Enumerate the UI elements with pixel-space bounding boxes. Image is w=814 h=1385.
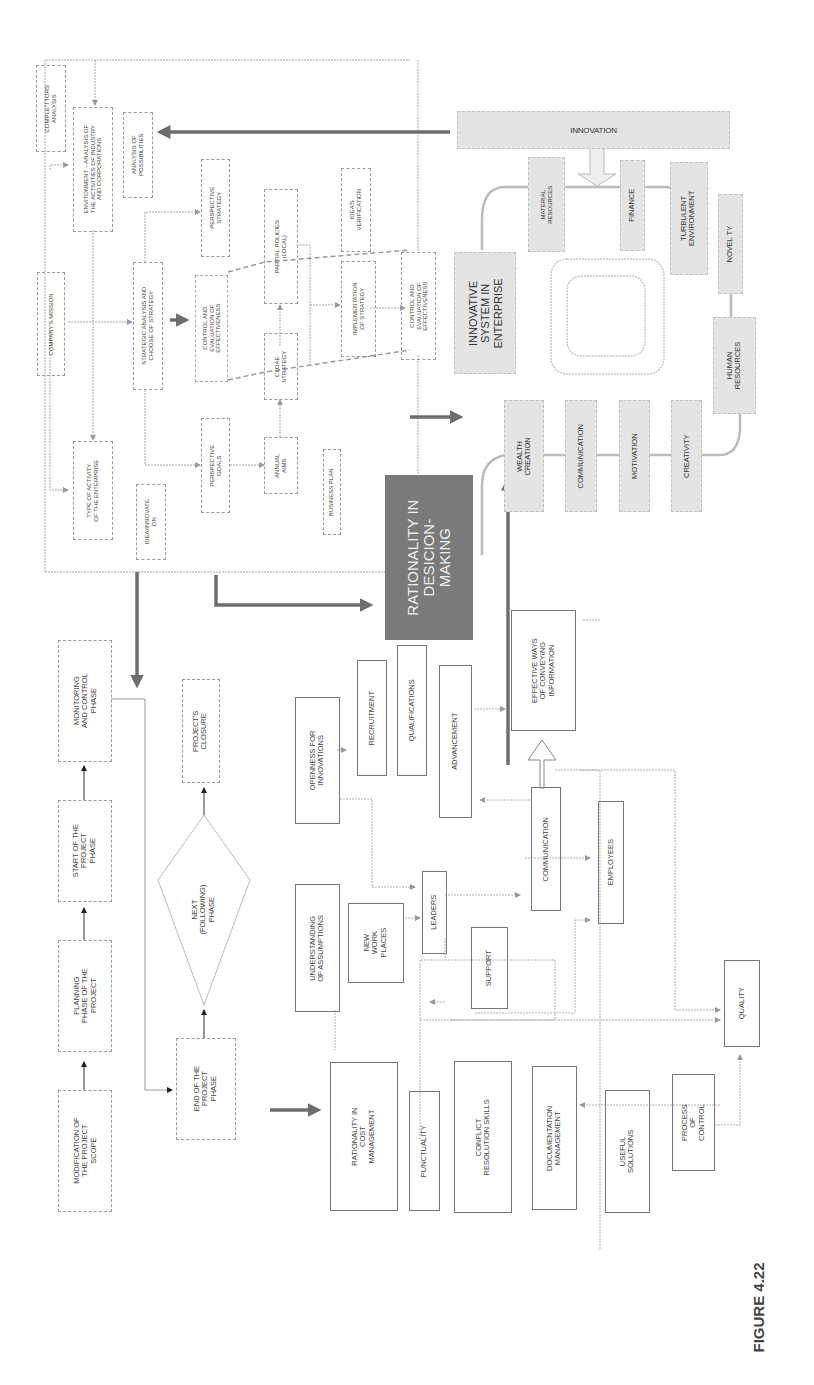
competitors-analysis-box: COMPLE"TTORS ANALYSIS — [36, 65, 66, 152]
advancement-box: ADVANCEMENT — [439, 665, 472, 818]
strategic-analysis-box: STRATEGIC ANALYSIS AND CHOOSE OF STRATEG… — [133, 262, 163, 390]
qualifications-label: QUALIFICATIONS — [408, 680, 416, 742]
new-work-places-box: NEW WORK PLACES — [348, 903, 404, 983]
company-mission-box: COMPANY'S MISSION — [37, 272, 65, 376]
effective-ways-label: EFFECTIVE WAYS OF CONVEYING INFORMATION — [531, 638, 556, 703]
partial-policies-box: PARTIAL POLICIES (LOCAL) — [264, 189, 298, 304]
business-plan-box: BUSINESS PLAN — [323, 449, 341, 535]
openness-innovations-label: OPENNESS FOR INNOVATIONS — [309, 731, 326, 791]
human-resources-box: HUMAN RESOURCES — [713, 317, 756, 414]
project-closure-box: PROJECT'S CLOSURE — [182, 679, 220, 783]
type-of-activity-box: TYPE OF ACTIVITY OF THE ENTERPRISE — [73, 441, 113, 540]
environment-label: ENVITONMENT – ANALYSIS OF THE ACTIVITIES… — [83, 125, 103, 214]
effective-ways-box: EFFECTIVE WAYS OF CONVEYING INFORMATION — [511, 610, 576, 731]
start-phase-label: START OF THE PROJECT PHASE — [72, 824, 97, 877]
analysis-of-possibilities-label: ANALYSIS OF POSSIBILITIES — [131, 134, 144, 176]
figure-caption-text: FIGURE 4.22 — [750, 1262, 767, 1352]
partial-policies-label: PARTIAL POLICIES (LOCAL) — [274, 220, 287, 274]
company-mission-label: COMPANY'S MISSION — [48, 293, 55, 355]
perspective-goals-label: PERSPECTIVE GOALS — [209, 444, 222, 486]
ideas-verification-label: IDEA'S VERIFICATION — [349, 189, 362, 231]
motivation-label: MOTIVATION — [630, 433, 638, 479]
creativity-label: CREATIVITY — [682, 434, 690, 478]
innovative-system-box: INNOVATIVE SYSTEM IN ENTERPRISE — [454, 252, 516, 374]
monitoring-phase-label: MONITORING AND CONTROL PHASE — [72, 674, 97, 729]
finance-box: FINANCE — [620, 160, 645, 251]
employees-box: EMPLOYEES — [598, 801, 624, 924]
communication-management-box: COMMUNICATION — [531, 787, 561, 911]
control-evaluation-dashed-box: CONTROL AND EVALUATION OF EFFECTIVENESS — [195, 275, 228, 382]
idea-innovation-label: IDEA/INNOVATE ON — [144, 499, 157, 544]
understanding-assumptions-box: UNDERSTANDING OF ASSUMPTIONS — [295, 884, 340, 1012]
perspective-goals-box: PERSPECTIVE GOALS — [201, 418, 230, 513]
annual-aims-label: ANNUAL AIMS — [274, 453, 287, 477]
cloae-strategy-label: CLOAE STRATEGY — [274, 351, 287, 383]
leaders-box: LEADERS — [422, 871, 447, 954]
strategic-analysis-label: STRATEGIC ANALYSIS AND CHOOSE OF STRATEG… — [141, 287, 154, 365]
rationality-cost-label: RATIONALITY IN COST MANAGEMENT — [351, 1107, 376, 1165]
competitors-analysis-label: COMPLE"TTORS ANALYSIS — [44, 85, 57, 133]
process-of-control-label: PROCESS OF CONTROL — [681, 1104, 706, 1141]
business-plan-label: BUSINESS PLAN — [329, 468, 336, 516]
control-evaluation-dashed-label: CONTROL AND EVALUATION OF EFFECTIVENESS — [201, 304, 221, 353]
modification-scope-label: MODIFICATION OF THE PROJECT SCOPE — [72, 1118, 97, 1185]
quality-box: QUALITY — [724, 960, 760, 1047]
environment-box: ENVITONMENT – ANALYSIS OF THE ACTIVITIES… — [73, 107, 113, 232]
material-resources-box: MATERIAL RESOURCES — [528, 157, 565, 252]
finance-label: FINANCE — [628, 189, 636, 222]
material-resources-label: MATERIAL RESOURCES — [540, 185, 553, 223]
perspective-strategy-box: PERSPECTIVE STRATEGY — [201, 159, 230, 257]
documentation-box: DOCUMENTATION MANAGEMENT — [532, 1066, 577, 1210]
modification-scope-box: MODIFICATION OF THE PROJECT SCOPE — [58, 1090, 112, 1212]
rationality-decision-making-box: RATIONALITY IN DESICION- MAKING — [385, 475, 473, 640]
analysis-of-possibilities-box: ANALYSIS OF POSSIBILITIES — [123, 112, 153, 198]
next-phase-diamond: NEXT (FOLLOWING) PHASE — [164, 830, 244, 990]
novelty-label: NOVEL TY — [726, 226, 734, 263]
innovation-box: INNOVATION — [457, 111, 730, 149]
control-evaluation-label: CONTROL AND EVALUATION OF EFFECTIVENESS — [408, 281, 428, 330]
turbulent-environment-label: TURBULENT ENVIRONMENT — [681, 191, 698, 246]
cloae-strategy-box: CLOAE STRATEGY — [264, 333, 298, 400]
ideas-verification-box: IDEA'S VERIFICATION — [341, 168, 371, 252]
end-phase-box: END OF THE PROJECT PHASE — [176, 1038, 236, 1140]
turbulent-environment-box: TURBULENT ENVIRONMENT — [670, 162, 708, 275]
innovative-system-label: INNOVATIVE SYSTEM IN ENTERPRISE — [467, 278, 504, 348]
conflict-resolution-box: CONFLICT RESOLUTION SKILLS — [454, 1061, 512, 1213]
useful-solutions-box: USEFUL SOLUTIONS — [605, 1090, 650, 1213]
conflict-resolution-label: CONFLICT RESOLUTION SKILLS — [475, 1099, 492, 1175]
communication-management-label: COMMUNICATION — [542, 817, 550, 881]
leaders-label: LEADERS — [430, 895, 438, 930]
advancement-label: ADVANCEMENT — [451, 713, 459, 770]
rationality-decision-making-label: RATIONALITY IN DESICION- MAKING — [405, 499, 452, 615]
next-phase-label: NEXT (FOLLOWING) PHASE — [191, 885, 216, 935]
wealth-creation-label: WEALTH CREATION — [516, 437, 533, 475]
punctuality-box: PUNCTUALITY — [409, 1091, 440, 1211]
rationality-cost-box: RATIONALITY IN COST MANAGEMENT — [330, 1062, 398, 1211]
communication-innovation-label: COMMUNICATION — [577, 424, 585, 488]
communication-innovation-box: COMMUNICATION — [565, 400, 597, 512]
implementation-label: IMPLEMENTATION OF STRATEGY — [352, 283, 365, 335]
wealth-creation-box: WEALTH CREATION — [504, 400, 544, 512]
novelty-box: NOVEL TY — [718, 194, 743, 294]
support-box: SUPPORT — [471, 927, 508, 1009]
creativity-box: CREATIVITY — [671, 400, 702, 512]
control-evaluation-box: CONTROL AND EVALUATION OF EFFECTIVENESS — [401, 252, 436, 360]
recruitment-label: RECRUITMENT — [368, 691, 376, 746]
understanding-assumptions-label: UNDERSTANDING OF ASSUMPTIONS — [309, 915, 326, 982]
planning-phase-box: PLANNING PHASE OF THE PROJECT — [58, 940, 112, 1052]
new-work-places-label: NEW WORK PLACES — [363, 928, 388, 958]
employees-label: EMPLOYEES — [607, 839, 615, 885]
type-of-activity-label: TYPE OF ACTIVITY OF THE ENTERPRISE — [86, 460, 99, 522]
figure-caption: FIGURE 4.22 — [738, 1262, 778, 1352]
quality-label: QUALITY — [738, 987, 746, 1019]
monitoring-phase-box: MONITORING AND CONTROL PHASE — [58, 640, 112, 762]
planning-phase-label: PLANNING PHASE OF THE PROJECT — [72, 969, 97, 1024]
punctuality-label: PUNCTUALITY — [420, 1125, 428, 1177]
process-of-control-box: PROCESS OF CONTROL — [672, 1074, 715, 1171]
innovation-label: INNOVATION — [570, 126, 617, 135]
implementation-box: IMPLEMENTATION OF STRATEGY — [341, 261, 376, 357]
motivation-box: MOTIVATION — [619, 400, 650, 512]
documentation-label: DOCUMENTATION MANAGEMENT — [546, 1105, 563, 1170]
idea-innovation-box: IDEA/INNOVATE ON — [136, 484, 166, 560]
start-phase-box: START OF THE PROJECT PHASE — [58, 800, 112, 902]
